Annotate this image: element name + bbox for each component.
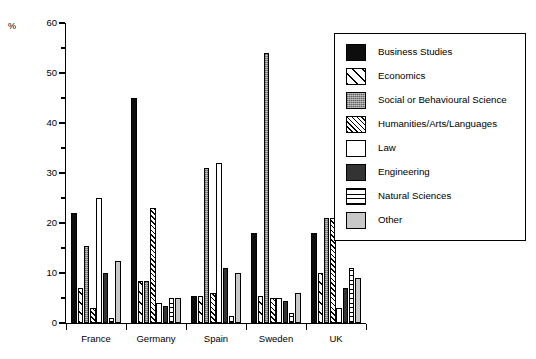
y-tick-major (59, 122, 65, 123)
x-axis-line (65, 323, 366, 324)
x-tick (246, 324, 247, 330)
bar-group-spain (186, 23, 246, 323)
bar (264, 53, 269, 323)
bar (109, 318, 114, 323)
legend-label: Engineering (378, 167, 430, 177)
y-tick-label: 10 (31, 268, 57, 278)
y-tick-label: 50 (31, 68, 57, 78)
bar (336, 308, 341, 323)
bar (295, 293, 300, 323)
bar-group-sweden (246, 23, 306, 323)
bar (144, 281, 149, 324)
legend-label: Social or Behavioural Science (378, 95, 507, 105)
bar-group-germany (126, 23, 186, 323)
legend-item: Social or Behavioural Science (335, 88, 525, 112)
legend-item: Law (335, 136, 525, 160)
bar (204, 168, 209, 323)
bar (103, 273, 108, 323)
legend-item: Economics (335, 64, 525, 88)
y-tick-major (59, 22, 65, 23)
x-tick-label-uk: UK (301, 334, 371, 344)
bar (355, 278, 360, 323)
legend-item: Humanities/Arts/Languages (335, 112, 525, 136)
bar (223, 268, 228, 323)
bar (90, 308, 95, 323)
legend-item: Other (335, 208, 525, 232)
y-tick-minor (61, 197, 65, 198)
bar (175, 298, 180, 323)
x-tick (306, 324, 307, 330)
bar (96, 198, 101, 323)
legend-item: Engineering (335, 160, 525, 184)
y-tick-minor (61, 97, 65, 98)
bar (84, 246, 89, 324)
y-tick-minor (61, 47, 65, 48)
y-tick-label: 20 (31, 218, 57, 228)
bar (311, 233, 316, 323)
bar (156, 303, 161, 323)
x-tick (366, 324, 367, 330)
y-tick-major (59, 72, 65, 73)
y-tick-major (59, 222, 65, 223)
bar (78, 288, 83, 323)
legend-swatch-icon (346, 188, 366, 205)
bar-chart: % 0102030405060 FranceGermanySpainSweden… (0, 0, 536, 359)
bar (71, 213, 76, 323)
bar (169, 298, 174, 323)
y-tick-label: 60 (31, 18, 57, 28)
x-tick (126, 324, 127, 330)
y-tick-minor (61, 297, 65, 298)
legend-label: Other (378, 215, 402, 225)
bar (235, 273, 240, 323)
bar (276, 298, 281, 323)
bar (138, 281, 143, 324)
y-tick-major (59, 272, 65, 273)
bar (343, 288, 348, 323)
plot-area (66, 23, 366, 323)
bar (289, 313, 294, 323)
bar (251, 233, 256, 323)
bar (324, 218, 329, 323)
bar (163, 306, 168, 324)
y-tick-minor (61, 247, 65, 248)
bar (210, 293, 215, 323)
bar (131, 98, 136, 323)
legend-swatch-icon (346, 68, 366, 85)
bar (283, 301, 288, 324)
legend-label: Humanities/Arts/Languages (378, 119, 497, 129)
legend-label: Law (378, 143, 396, 153)
bar (150, 208, 155, 323)
bar (318, 273, 323, 323)
y-tick-major (59, 322, 65, 323)
legend-swatch-icon (346, 116, 366, 133)
y-tick-minor (61, 147, 65, 148)
bar (258, 296, 263, 324)
bar (270, 298, 275, 323)
bar (191, 296, 196, 324)
bar (115, 261, 120, 324)
legend-swatch-icon (346, 164, 366, 181)
legend-item: Business Studies (335, 40, 525, 64)
legend-item: Natural Sciences (335, 184, 525, 208)
legend-label: Economics (378, 71, 425, 81)
bar (229, 316, 234, 324)
legend-label: Natural Sciences (378, 191, 451, 201)
x-tick (66, 324, 67, 330)
legend-swatch-icon (346, 92, 366, 109)
y-tick-label: 40 (31, 118, 57, 128)
y-tick-label: 30 (31, 168, 57, 178)
y-tick-label: 0 (31, 318, 57, 328)
legend-label: Business Studies (378, 47, 452, 57)
legend-swatch-icon (346, 44, 366, 61)
bar-group-france (66, 23, 126, 323)
chart-legend: Business StudiesEconomicsSocial or Behav… (334, 33, 526, 241)
bar (349, 268, 354, 323)
legend-swatch-icon (346, 140, 366, 157)
legend-swatch-icon (346, 212, 366, 229)
y-axis-unit-label: % (8, 22, 16, 31)
y-tick-major (59, 172, 65, 173)
bar (198, 296, 203, 324)
bar (216, 163, 221, 323)
x-tick (186, 324, 187, 330)
